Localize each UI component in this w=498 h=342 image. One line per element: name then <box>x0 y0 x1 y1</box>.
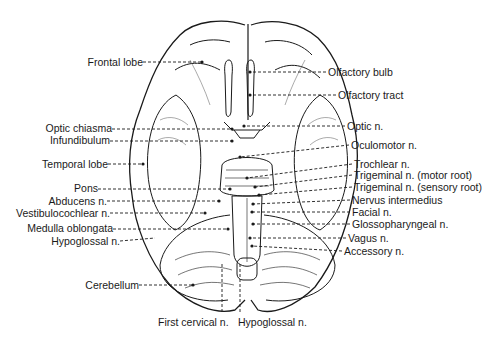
label-abducens-n: Abducens n. <box>49 195 107 207</box>
label-trigeminal-sensory-root: Trigeminal n. (sensory root) <box>354 181 482 193</box>
label-vagus-n: Vagus n. <box>348 232 389 244</box>
leader-dots <box>141 60 260 286</box>
olfactory-left <box>225 60 233 117</box>
label-oculomotor-n: Oculomotor n. <box>351 139 417 151</box>
label-hypoglossal-n-bottom: Hypoglossal n. <box>238 316 307 328</box>
label-first-cervical-n: First cervical n. <box>158 316 229 328</box>
label-facial-n: Facial n. <box>352 206 392 218</box>
temporal-lobe-right <box>294 95 347 230</box>
label-olfactory-bulb: Olfactory bulb <box>328 66 393 78</box>
cerebellum-right <box>264 215 335 301</box>
label-temporal-lobe: Temporal lobe <box>42 158 108 170</box>
label-frontal-lobe: Frontal lobe <box>88 56 143 68</box>
label-cerebellum: Cerebellum <box>85 279 139 291</box>
cerebellum-left <box>160 215 230 301</box>
label-accessory-n: Accessory n. <box>344 245 404 257</box>
label-trigeminal-motor-root: Trigeminal n. (motor root) <box>354 169 472 181</box>
label-infundibulum: Infundibulum <box>50 134 110 146</box>
label-hypoglossal-n-left: Hypoglossal n. <box>51 235 120 247</box>
label-olfactory-tract: Olfactory tract <box>338 89 403 101</box>
label-optic-n: Optic n. <box>347 120 383 132</box>
label-optic-chiasma: Optic chiasma <box>45 122 112 134</box>
temporal-lobe-left <box>147 95 200 230</box>
label-vestibulocochlear-n: Vestibulocochlear n. <box>16 207 110 219</box>
label-pons: Pons <box>74 182 98 194</box>
label-medulla-oblongata: Medulla oblongata <box>27 222 113 234</box>
label-glossopharyngeal-n: Glossopharyngeal n. <box>352 218 448 230</box>
brain-diagram: Frontal lobe Optic chiasma Infundibulum … <box>0 0 498 342</box>
label-nervus-intermedius: Nervus intermedius <box>352 194 442 206</box>
